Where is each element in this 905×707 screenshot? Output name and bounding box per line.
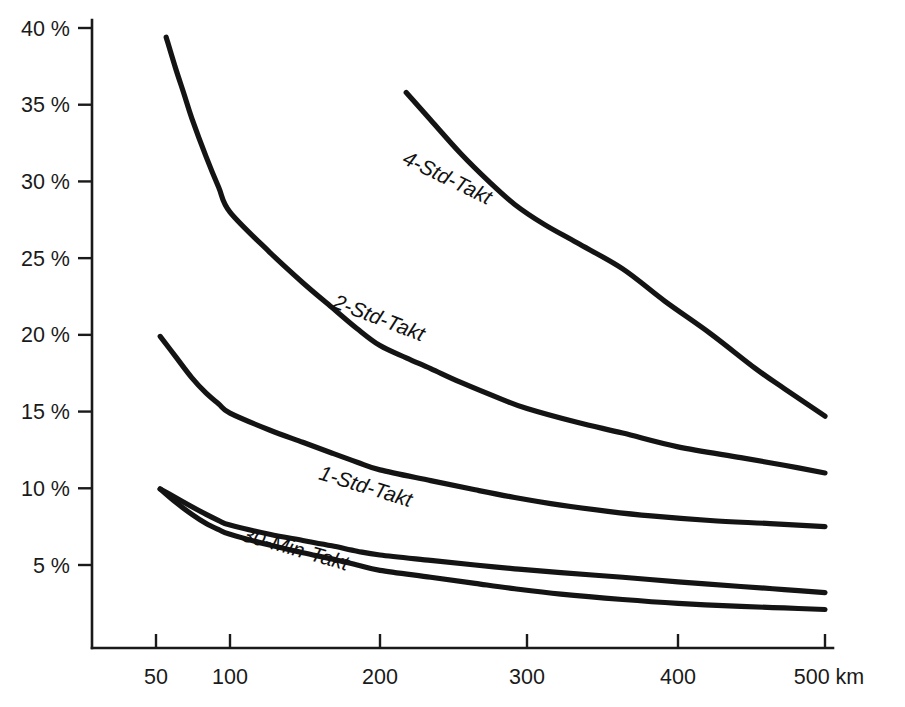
x-axis-group: 50100200300400500 km	[92, 634, 864, 689]
y-tick-label: 20 %	[21, 323, 70, 347]
x-tick-label: 400	[660, 665, 696, 689]
x-tick-label: 500 km	[794, 665, 865, 689]
x-tick-label: 50	[144, 665, 168, 689]
y-tick-group: 5 %10 %15 %20 %25 %30 %35 %40 %	[21, 17, 92, 578]
series-curve-4-std-takt	[166, 37, 825, 473]
y-tick-label: 40 %	[21, 17, 70, 41]
series-curve-4-std-takt-upper	[406, 92, 825, 416]
y-tick-label: 15 %	[21, 400, 70, 424]
x-tick-label: 300	[509, 665, 545, 689]
y-tick-label: 10 %	[21, 477, 70, 501]
series-label-1-std-takt: 1-Std-Takt	[317, 461, 417, 511]
y-tick-label: 25 %	[21, 247, 70, 271]
series-label-30-min-takt: 30-Min-Takt	[239, 522, 352, 575]
y-tick-label: 35 %	[21, 93, 70, 117]
y-tick-label: 5 %	[33, 554, 70, 578]
chart-root: 5 %10 %15 %20 %25 %30 %35 %40 % 50100200…	[0, 0, 905, 707]
x-tick-label: 100	[212, 665, 248, 689]
series-label-group: 4-Std-Takt2-Std-Takt1-Std-Takt30-Min-Tak…	[239, 146, 496, 575]
chart-canvas: 5 %10 %15 %20 %25 %30 %35 %40 % 50100200…	[0, 0, 905, 707]
series-curve-2-std-takt	[160, 336, 825, 526]
x-tick-group: 50100200300400500 km	[144, 634, 864, 689]
y-tick-label: 30 %	[21, 170, 70, 194]
series-group	[160, 37, 825, 609]
y-axis-group: 5 %10 %15 %20 %25 %30 %35 %40 %	[21, 17, 92, 649]
x-tick-label: 200	[362, 665, 398, 689]
